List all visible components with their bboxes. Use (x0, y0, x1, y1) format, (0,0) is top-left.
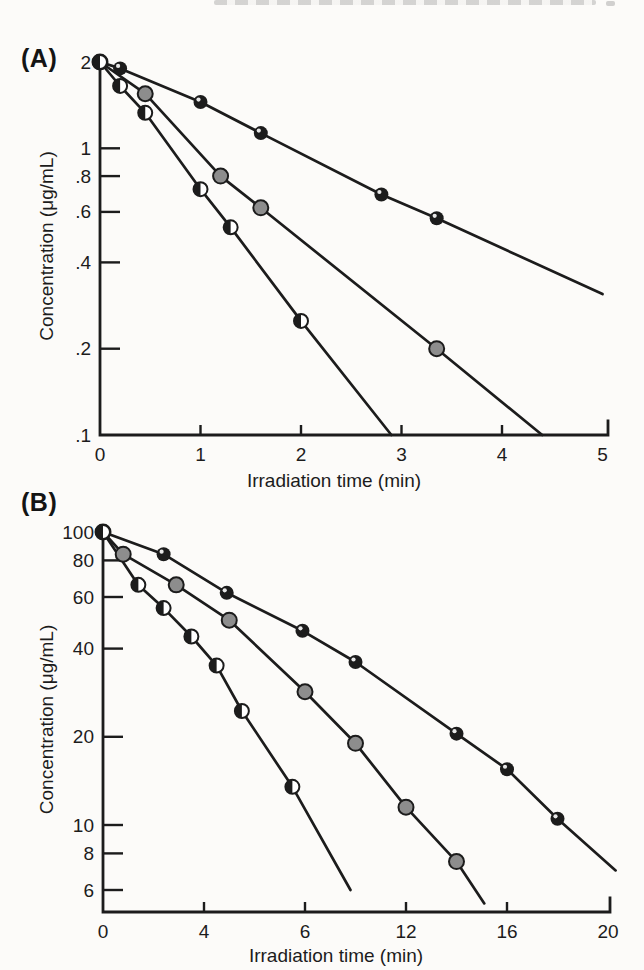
y-tick-label: .4 (75, 252, 91, 273)
figure-canvas: 01234521.8.6.4.2.1Irradiation time (min)… (0, 0, 644, 970)
x-tick-label: 4 (497, 444, 508, 465)
y-tick-label: .6 (75, 201, 91, 222)
half-circle-marker (224, 220, 238, 234)
x-tick-label: 0 (98, 921, 109, 942)
half-circle-marker (285, 780, 299, 794)
black-circle-marker (551, 812, 565, 826)
gray-circle-marker (213, 169, 228, 184)
x-axis-title: Irradiation time (min) (249, 945, 423, 966)
y-tick-label: 8 (83, 843, 94, 864)
y-tick-label: 20 (73, 726, 94, 747)
gray-circle-marker (253, 200, 268, 215)
x-tick-label: 0 (95, 444, 106, 465)
y-tick-label: 60 (73, 587, 94, 608)
series-line-black-filled-circles (100, 62, 603, 294)
gray-circle-marker (169, 577, 184, 592)
half-circle-marker (157, 601, 171, 615)
half-circle-marker (294, 314, 308, 328)
half-circle-marker (113, 79, 127, 93)
black-circle-marker (220, 586, 234, 600)
y-tick-label: 1 (80, 138, 91, 159)
x-tick-label: 16 (496, 921, 517, 942)
black-circle-marker (295, 624, 309, 638)
x-tick-label: 12 (395, 921, 416, 942)
scanned-figure-page: (A) (B) 01234521.8.6.4.2.1Irradiation ti… (0, 0, 644, 970)
half-circle-marker (96, 525, 110, 539)
y-tick-label: 40 (73, 638, 94, 659)
gray-circle-marker (429, 341, 444, 356)
black-circle-marker (430, 211, 444, 225)
y-tick-label: 80 (73, 550, 94, 571)
y-tick-label: 100 (62, 522, 94, 543)
series-line-gray-filled-circles (103, 532, 484, 903)
black-circle-marker (157, 547, 171, 561)
y-tick-label: .2 (75, 338, 91, 359)
gray-circle-marker (449, 854, 464, 869)
y-tick-label: .8 (75, 166, 91, 187)
black-circle-marker (349, 655, 363, 669)
black-circle-marker (374, 188, 388, 202)
black-circle-marker (254, 126, 268, 140)
gray-circle-marker (348, 736, 363, 751)
series-line-gray-filled-circles (100, 62, 542, 435)
y-tick-label: 2 (80, 52, 91, 73)
half-circle-marker (235, 704, 249, 718)
x-tick-label: 6 (300, 921, 311, 942)
x-tick-label: 4 (199, 921, 210, 942)
half-circle-marker (131, 578, 145, 592)
axes (100, 57, 608, 435)
y-axis-title: Concentration (μg/mL) (36, 151, 57, 340)
black-circle-marker (450, 727, 464, 741)
black-circle-marker (113, 61, 127, 75)
gray-circle-marker (298, 684, 313, 699)
black-circle-marker (194, 95, 208, 109)
half-circle-marker (184, 629, 198, 643)
x-tick-label: 20 (597, 921, 618, 942)
black-circle-marker (500, 762, 514, 776)
gray-circle-marker (138, 86, 153, 101)
gray-circle-marker (222, 613, 237, 628)
x-tick-label: 1 (195, 444, 206, 465)
x-tick-label: 2 (296, 444, 307, 465)
x-tick-label: 5 (597, 444, 608, 465)
x-tick-label: 3 (396, 444, 407, 465)
half-circle-marker (210, 659, 224, 673)
gray-circle-marker (116, 547, 131, 562)
panel-b-plot: 046121620100806040201086Irradiation time… (36, 522, 619, 966)
y-tick-label: 6 (83, 880, 94, 901)
panel-a-plot: 01234521.8.6.4.2.1Irradiation time (min)… (36, 52, 609, 491)
y-axis-title: Concentration (μg/mL) (36, 625, 57, 814)
half-circle-marker (194, 182, 208, 196)
half-circle-marker (138, 106, 152, 120)
x-axis-title: Irradiation time (min) (247, 470, 421, 491)
y-tick-label: .1 (75, 425, 91, 446)
y-tick-label: 10 (73, 815, 94, 836)
half-circle-marker (93, 55, 107, 69)
gray-circle-marker (399, 800, 414, 815)
